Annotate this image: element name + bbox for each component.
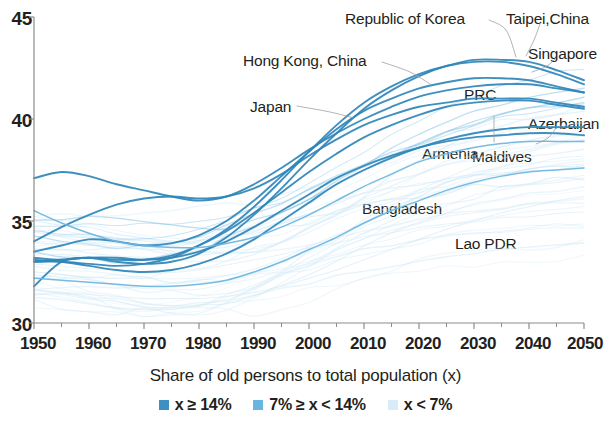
background-series-lines <box>34 69 584 316</box>
axis-caption: Share of old persons to total population… <box>0 366 611 386</box>
legend-label-low: x < 7% <box>404 396 452 414</box>
legend-label-mid: 7% ≥ x < 14% <box>269 396 365 414</box>
legend-swatch-low-icon <box>388 400 398 410</box>
legend-swatch-mid-icon <box>253 400 263 410</box>
plot-area <box>0 0 611 423</box>
legend-item-mid: 7% ≥ x < 14% <box>253 396 365 414</box>
chart-figure: 45 40 35 30 1950 1960 1970 1980 1990 200… <box>0 0 611 423</box>
legend-label-high: x ≥ 14% <box>175 396 232 414</box>
legend-item-low: x < 7% <box>388 396 452 414</box>
legend-swatch-high-icon <box>159 400 169 410</box>
legend: x ≥ 14% 7% ≥ x < 14% x < 7% <box>0 396 611 414</box>
legend-item-high: x ≥ 14% <box>159 396 232 414</box>
